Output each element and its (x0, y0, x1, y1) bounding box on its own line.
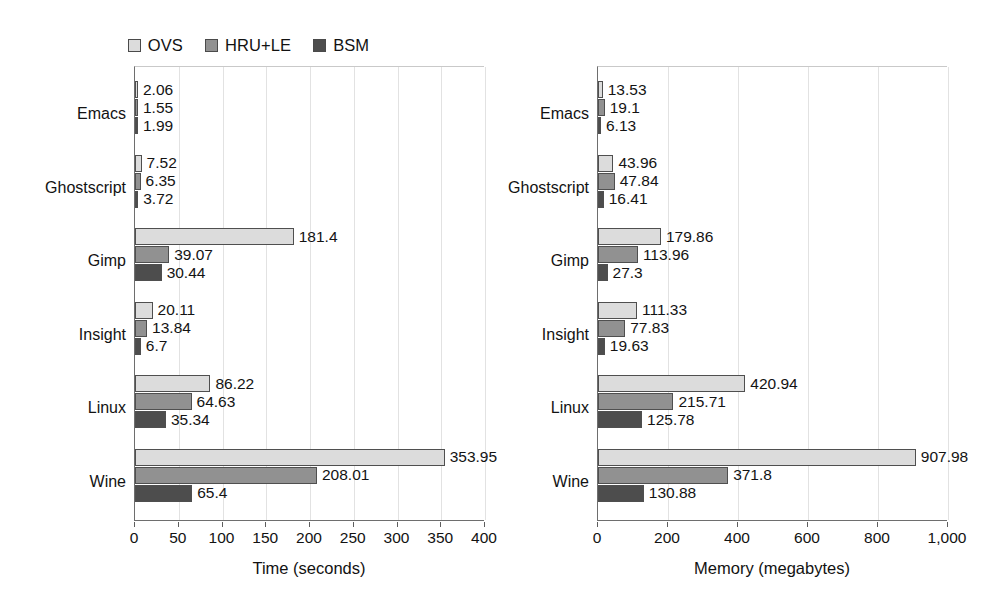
bar-hru-le (135, 99, 138, 116)
category-label: Linux (88, 399, 126, 417)
legend-item-bsm: BSM (313, 36, 369, 55)
bar-bsm (135, 485, 192, 502)
bar-row: 1.55 (135, 99, 173, 116)
bar-row: 20.11 (135, 302, 195, 319)
bar-value-label: 111.33 (642, 301, 687, 319)
axis-tick (309, 522, 310, 527)
bar-value-label: 3.72 (143, 190, 173, 208)
axis-tick-label: 400 (724, 529, 750, 547)
axis-tick-label: 300 (384, 529, 410, 547)
bar-value-label: 35.34 (171, 411, 210, 429)
category-label: Insight (79, 326, 126, 344)
bar-row: 7.52 (135, 155, 177, 172)
x-axis-title-time: Time (seconds) (134, 559, 484, 578)
bar-value-label: 6.13 (606, 117, 636, 135)
bar-row: 371.8 (598, 467, 772, 484)
bar-bsm (135, 411, 166, 428)
bar-hru-le (598, 467, 728, 484)
bar-value-label: 64.63 (197, 393, 236, 411)
chart-legend: OVSHRU+LEBSM (0, 36, 497, 55)
bar-bsm (598, 485, 644, 502)
bar-row: 13.53 (598, 81, 647, 98)
bar-row: 125.78 (598, 411, 694, 428)
axis-tick-label: 50 (169, 529, 186, 547)
category-label: Linux (551, 399, 589, 417)
bar-group: Wine907.98371.8130.88 (598, 449, 947, 515)
axis-tick (222, 522, 223, 527)
category-label: Gimp (551, 252, 589, 270)
bar-ovs (135, 228, 294, 245)
bar-value-label: 215.71 (678, 393, 725, 411)
axis-tick (597, 522, 598, 527)
bar-ovs (135, 302, 153, 319)
axis-tick (877, 522, 878, 527)
bar-row: 208.01 (135, 467, 369, 484)
bar-value-label: 16.41 (609, 190, 648, 208)
axis-tick-label: 200 (654, 529, 680, 547)
bar-value-label: 181.4 (299, 228, 338, 246)
bar-row: 64.63 (135, 393, 235, 410)
bar-row: 420.94 (598, 375, 798, 392)
bar-row: 353.95 (135, 449, 497, 466)
bar-ovs (598, 449, 916, 466)
bar-value-label: 77.83 (630, 319, 669, 337)
bar-group: Insight111.3377.8319.63 (598, 302, 947, 368)
bar-group: Ghostscript43.9647.8416.41 (598, 155, 947, 221)
category-label: Wine (90, 473, 126, 491)
legend-label: HRU+LE (225, 36, 291, 55)
bar-row: 6.13 (598, 117, 636, 134)
axis-tick-label: 150 (252, 529, 278, 547)
bar-row: 179.86 (598, 228, 713, 245)
bar-row: 43.96 (598, 155, 657, 172)
bar-value-label: 39.07 (174, 246, 213, 264)
bar-row: 6.35 (135, 173, 176, 190)
bar-row: 47.84 (598, 173, 659, 190)
legend-swatch-icon (313, 39, 326, 52)
bar-row: 19.1 (598, 99, 640, 116)
bar-ovs (135, 449, 445, 466)
bar-group: Gimp181.439.0730.44 (135, 228, 484, 294)
bar-group: Gimp179.86113.9627.3 (598, 228, 947, 294)
axis-tick (397, 522, 398, 527)
legend-swatch-icon (128, 39, 141, 52)
category-label: Ghostscript (508, 179, 589, 197)
bar-bsm (598, 264, 608, 281)
legend-item-hru-le: HRU+LE (205, 36, 291, 55)
axis-tick-label: 200 (296, 529, 322, 547)
bar-bsm (135, 264, 162, 281)
bar-row: 907.98 (598, 449, 968, 466)
bar-value-label: 179.86 (666, 228, 713, 246)
x-axis-title-memory: Memory (megabytes) (597, 559, 947, 578)
plot-area-memory: Emacs13.5319.16.13Ghostscript43.9647.841… (597, 66, 947, 521)
x-axis-time: 050100150200250300350400 (134, 522, 484, 552)
bar-value-label: 7.52 (147, 154, 177, 172)
axis-tick (947, 522, 948, 527)
axis-tick-label: 100 (209, 529, 235, 547)
plot-area-time: Emacs2.061.551.99Ghostscript7.526.353.72… (134, 66, 484, 521)
bar-value-label: 125.78 (647, 411, 694, 429)
bar-bsm (598, 191, 604, 208)
bar-value-label: 6.35 (146, 172, 176, 190)
bar-ovs (598, 302, 637, 319)
bar-group: Linux420.94215.71125.78 (598, 375, 947, 441)
bar-row: 6.7 (135, 338, 167, 355)
category-label: Emacs (77, 105, 126, 123)
bar-row: 13.84 (135, 320, 191, 337)
bar-value-label: 19.1 (610, 99, 640, 117)
bar-value-label: 113.96 (643, 246, 689, 264)
category-label: Wine (553, 473, 589, 491)
bar-value-label: 907.98 (921, 448, 968, 466)
bar-value-label: 420.94 (750, 375, 797, 393)
axis-tick (737, 522, 738, 527)
bar-group: Emacs13.5319.16.13 (598, 81, 947, 147)
bar-value-label: 27.3 (613, 264, 643, 282)
category-label: Ghostscript (45, 179, 126, 197)
bar-value-label: 208.01 (322, 466, 369, 484)
bar-value-label: 65.4 (197, 484, 227, 502)
bar-row: 2.06 (135, 81, 173, 98)
axis-tick (178, 522, 179, 527)
bar-ovs (135, 375, 210, 392)
axis-tick (134, 522, 135, 527)
bar-ovs (598, 228, 661, 245)
axis-tick-label: 0 (130, 529, 139, 547)
